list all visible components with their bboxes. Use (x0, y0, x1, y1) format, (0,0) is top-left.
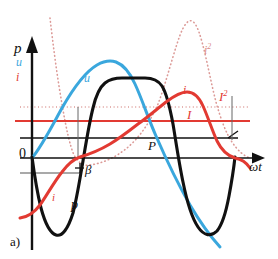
plot-canvas (0, 0, 278, 259)
axis-label-u: u (16, 56, 22, 68)
curve-label-i-lower: i (52, 192, 55, 203)
level-label-p: P (148, 139, 156, 152)
marker-label-beta: β (85, 163, 91, 176)
figure-waveform-diagram: p u i 0 ωt u i i p i2 I2 I P β a) (0, 0, 278, 259)
curve-label-i-squared-exponent: 2 (207, 42, 211, 51)
y-axis-arrowhead (26, 36, 38, 53)
curve-label-i: i (183, 84, 186, 96)
level-label-i-squared-exponent: 2 (223, 88, 227, 98)
level-line-p-tick (228, 131, 238, 138)
curve-label-u: u (84, 72, 90, 84)
curve-p (32, 78, 235, 235)
level-label-i: I (187, 108, 191, 121)
axis-label-p: p (14, 41, 22, 56)
axis-label-i: i (16, 71, 19, 83)
curve-label-i-squared: i2 (204, 44, 211, 56)
figure-id-label: a) (10, 235, 20, 248)
origin-label: 0 (19, 147, 26, 161)
curve-u (32, 61, 220, 247)
x-axis-label: ωt (249, 160, 262, 173)
curve-label-p: p (71, 198, 78, 212)
level-label-i-squared: I2 (219, 90, 228, 103)
